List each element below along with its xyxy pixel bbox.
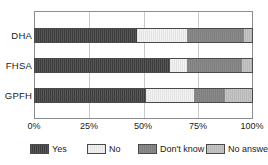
legend-label-no-answer: No answer: [228, 144, 268, 154]
bar-row-fhsa: [34, 58, 253, 73]
bar-segment-fhsa-dont-know: [187, 58, 242, 73]
xtick-label-100: 100%: [229, 121, 268, 131]
bar-row-dha: [34, 28, 253, 43]
bar-segment-gpfh-dont-know: [194, 88, 225, 103]
legend-label-yes: Yes: [52, 144, 67, 154]
legend-entry-no: No: [87, 143, 121, 155]
legend-entry-dont-know: Don't know: [138, 143, 204, 155]
bar-segment-fhsa-no-answer: [242, 58, 253, 73]
legend-swatch-no: [87, 144, 106, 154]
bar-segment-fhsa-yes: [34, 58, 170, 73]
bar-segment-fhsa-no: [170, 58, 188, 73]
bar-segment-dha-dont-know: [187, 28, 244, 43]
bar-segment-gpfh-no: [146, 88, 194, 103]
stacked-bar-chart: DHA FHSA GPFH 0% 25% 50% 75% 100% Yes No: [0, 0, 268, 165]
category-label-gpfh: GPFH: [0, 91, 32, 101]
bar-segment-dha-yes: [34, 28, 137, 43]
bar-segment-gpfh-yes: [34, 88, 146, 103]
bar-segment-dha-no-answer: [244, 28, 253, 43]
legend-entry-no-answer: No answer: [206, 143, 268, 155]
legend-entry-yes: Yes: [30, 143, 67, 155]
legend-label-dont-know: Don't know: [160, 144, 204, 154]
category-label-dha: DHA: [0, 31, 32, 41]
legend-label-no: No: [109, 144, 121, 154]
xtick-label-75: 75%: [175, 121, 221, 131]
bar-segment-gpfh-no-answer: [225, 88, 253, 103]
bar-row-gpfh: [34, 88, 253, 103]
bar-segment-dha-no: [137, 28, 187, 43]
legend-swatch-yes: [30, 144, 49, 154]
xtick-label-50: 50%: [120, 121, 166, 131]
chart-legend: Yes No Don't know No answer: [30, 143, 260, 157]
legend-swatch-dont-know: [138, 144, 157, 154]
legend-swatch-no-answer: [206, 144, 225, 154]
category-label-fhsa: FHSA: [0, 61, 32, 71]
xtick-label-25: 25%: [66, 121, 112, 131]
xtick-label-0: 0%: [11, 121, 57, 131]
